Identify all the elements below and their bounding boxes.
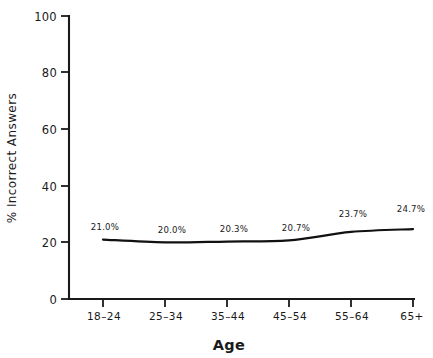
y-axis-title: % Incorrect Answers [5, 93, 19, 223]
x-tick-label-3: 45–54 [273, 310, 307, 322]
chart-canvas: 100 80 60 40 20 0 18–24 25–34 35–44 45–5… [0, 0, 433, 358]
x-tick-label-1: 25–34 [149, 310, 183, 322]
line-chart: 100 80 60 40 20 0 18–24 25–34 35–44 45–5… [0, 0, 433, 358]
point-label-0: 21.0% [91, 222, 119, 232]
point-label-5: 24.7% [397, 204, 425, 214]
y-tick-label-20: 20 [42, 236, 57, 250]
y-tick-label-100: 100 [34, 10, 57, 24]
x-tick-label-4: 55–64 [335, 310, 369, 322]
x-tick-label-5: 65+ [400, 310, 423, 322]
x-tick-label-2: 35–44 [211, 310, 245, 322]
x-tick-label-0: 18–24 [87, 310, 121, 322]
data-series-line [103, 229, 413, 242]
y-tick-label-80: 80 [42, 66, 57, 80]
y-tick-label-40: 40 [42, 180, 57, 194]
y-tick-label-0: 0 [49, 293, 57, 307]
point-label-4: 23.7% [339, 209, 367, 219]
point-label-2: 20.3% [220, 224, 248, 234]
x-axis-title: Age [213, 337, 246, 353]
point-label-1: 20.0% [158, 225, 186, 235]
point-label-3: 20.7% [282, 223, 310, 233]
y-tick-label-60: 60 [42, 123, 57, 137]
